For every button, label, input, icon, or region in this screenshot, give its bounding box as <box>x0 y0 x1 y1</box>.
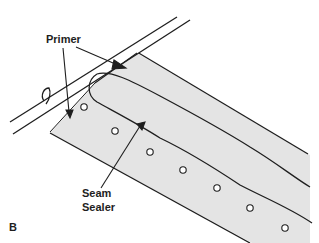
weld-spot-icon <box>112 128 118 134</box>
seam-sealer-label-line2: Sealer <box>82 201 115 214</box>
seam-sealer-label-line1: Seam <box>82 187 111 200</box>
weld-spot-icon <box>147 149 153 155</box>
primer-leader-left <box>63 48 69 112</box>
weld-spot-icon <box>81 104 87 110</box>
primer-label: Primer <box>46 33 81 46</box>
figure-letter: B <box>9 221 17 234</box>
weld-spot-icon <box>180 167 186 173</box>
weld-spot-icon <box>214 185 220 191</box>
weld-spot-icon <box>282 225 288 231</box>
diagram-canvas: Primer Seam Sealer B <box>0 0 319 243</box>
weld-spot-icon <box>247 205 253 211</box>
